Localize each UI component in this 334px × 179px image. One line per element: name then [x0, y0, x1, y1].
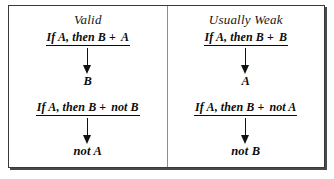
down-arrow-icon — [241, 118, 250, 144]
frame-shadow-bottom — [10, 168, 327, 170]
premise-operator: + — [254, 100, 266, 114]
figure-frame: Valid If A, then B+A B If A, then B+not … — [8, 5, 325, 168]
premise-modus-ponens: If A, then B+A — [46, 30, 131, 46]
column-valid: Valid If A, then B+A B If A, then B+not … — [9, 6, 167, 167]
column-usually-weak: Usually Weak If A, then B+B A If A, then… — [167, 6, 325, 167]
arrow-head — [83, 65, 91, 74]
premise-modus-tollens: If A, then B+not B — [36, 100, 140, 116]
columns-container: Valid If A, then B+A B If A, then B+not … — [9, 6, 324, 167]
premise-affirming-the-consequent: If A, then B+B — [204, 30, 289, 46]
arrow-head — [241, 65, 249, 74]
conclusion-affirming-the-consequent: A — [241, 74, 250, 88]
premise-additional: not B — [108, 100, 139, 114]
argument-forms-figure: Valid If A, then B+A B If A, then B+not … — [0, 0, 334, 179]
premise-operator: + — [264, 30, 276, 44]
premise-conditional: If A, then B — [195, 100, 254, 114]
conclusion-denying-the-antecedent: not B — [231, 144, 260, 158]
premise-conditional: If A, then B — [37, 100, 96, 114]
frame-shadow-right — [325, 7, 327, 170]
conclusion-modus-ponens: B — [83, 74, 92, 88]
down-arrow-icon — [241, 48, 250, 74]
column-title-usually-weak: Usually Weak — [209, 12, 283, 27]
arrow-head — [241, 135, 249, 144]
premise-denying-the-antecedent: If A, then B+not A — [194, 100, 297, 116]
arrow-head — [83, 135, 91, 144]
premise-conditional: If A, then B — [47, 30, 106, 44]
premise-additional: B — [276, 30, 287, 44]
premise-additional: A — [118, 30, 129, 44]
premise-conditional: If A, then B — [205, 30, 264, 44]
column-title-valid: Valid — [74, 12, 102, 27]
premise-operator: + — [106, 30, 118, 44]
down-arrow-icon — [83, 118, 92, 144]
premise-additional: not A — [266, 100, 296, 114]
premise-operator: + — [96, 100, 108, 114]
conclusion-modus-tollens: not A — [73, 144, 102, 158]
down-arrow-icon — [83, 48, 92, 74]
